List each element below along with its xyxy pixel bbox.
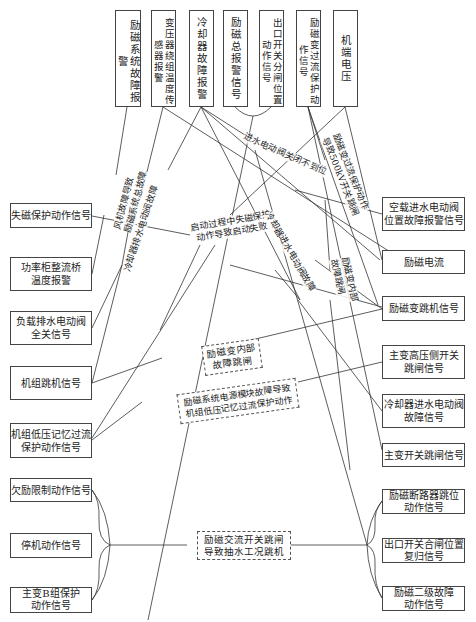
node-label-line1: 励磁二级故障 <box>394 587 454 599</box>
node-main-transformer-group-b-protection: 主变B组保护动作信号 <box>10 587 92 613</box>
node-cooler-fault-alarm: 冷却器故障报警 <box>189 10 214 107</box>
node-label-line1: 机组低压记忆过流 <box>11 428 91 441</box>
node-loss-of-excitation-protection: 失磁保护动作信号 <box>10 203 92 228</box>
node-label-line2: 动作信号 <box>31 600 71 612</box>
node-label-line1: 冷却器进水电动阀 <box>384 398 464 411</box>
node-excitation-breaker-trip-position: 励磁断路器跳位动作信号 <box>382 489 465 514</box>
node-label-line2: 动作信号 <box>404 502 444 514</box>
node-main-transformer-switch-trip: 主变开关跳闸信号 <box>382 443 465 467</box>
node-label: 失磁保护动作信号 <box>11 209 91 222</box>
node-label-line2: 位置故障报警信号 <box>384 214 464 227</box>
node-label: 主变开关跳闸信号 <box>384 449 464 462</box>
node-label: 励磁系统故障报警 <box>116 17 140 106</box>
node-excitation-level2-fault: 励磁二级故障动作信号 <box>382 586 465 611</box>
node-excitation-current: 励磁电流 <box>382 250 465 274</box>
node-label: 励磁电流 <box>404 256 444 269</box>
node-label-line2: 全关信号 <box>31 328 71 341</box>
node-label-line2: 动作信号 <box>404 599 444 611</box>
node-label: 冷却器故障报警 <box>196 17 208 101</box>
node-unit-trip-signal: 机组跳机信号 <box>10 366 92 400</box>
node-label-line2: 跳闸信号 <box>404 362 444 375</box>
fault-box-ac-switch-trip-pumping: 励磁交流开关跳闸 导致抽水工况跳机 <box>197 531 291 560</box>
node-label-line2: 温度报警 <box>31 274 71 287</box>
node-label: 励磁变跳机信号 <box>389 302 459 315</box>
node-label-line2: 保护动作信号 <box>21 441 81 454</box>
node-outlet-switch-close-reset: 出口开关合闸位置复归信号 <box>382 538 465 563</box>
node-excitation-system-fault-alarm: 励磁系统故障报警 <box>115 10 141 107</box>
node-label: 机组跳机信号 <box>21 377 81 390</box>
node-power-cabinet-rectifier-temp-alarm: 功率柜整流桥温度报警 <box>10 257 92 291</box>
node-outlet-switch-open-position: 出口开关分闸位置动作信号 <box>259 10 284 107</box>
node-label-line1: 空载进水电动阀 <box>389 201 459 214</box>
node-label-line1: 功率柜整流桥 <box>21 261 81 274</box>
node-low-voltage-memory-overcurrent: 机组低压记忆过流保护动作信号 <box>10 423 92 458</box>
node-under-excitation-limit: 欠励限制动作信号 <box>10 478 92 502</box>
node-label-line1: 主变B组保护 <box>22 588 79 600</box>
node-label: 励磁变过流保护动作信号 <box>298 17 320 106</box>
fault-box-line1: 励磁交流开关跳闸 <box>204 534 284 546</box>
node-transformer-winding-temp-alarm: 变压器绕组温度传感器报警 <box>151 10 176 107</box>
node-label: 停机动作信号 <box>21 539 81 552</box>
node-label: 变压器绕组温度传感器报警 <box>153 17 175 106</box>
fault-box-line2: 导致抽水工况跳机 <box>204 546 284 558</box>
node-label-line2: 故障信号 <box>404 411 444 424</box>
node-label-line1: 负载排水电动阀 <box>16 315 86 328</box>
node-load-drain-valve-closed: 负载排水电动阀全关信号 <box>10 311 92 345</box>
node-label: 出口开关分闸位置动作信号 <box>261 17 283 106</box>
node-excitation-transformer-trip: 励磁变跳机信号 <box>382 296 465 321</box>
node-label-line1: 出口开关合闸位置 <box>384 539 464 551</box>
node-main-transformer-hv-switch-trip: 主变高压侧开关跳闸信号 <box>382 345 465 379</box>
node-label: 机端电压 <box>340 35 352 83</box>
node-label-line2: 复归信号 <box>404 551 444 563</box>
node-label-line1: 励磁断路器跳位 <box>389 490 459 502</box>
node-label-line1: 主变高压侧开关 <box>389 349 459 362</box>
node-noload-inlet-valve-position-fault: 空载进水电动阀位置故障报警信号 <box>382 197 465 231</box>
node-excitation-transformer-overcurrent: 励磁变过流保护动作信号 <box>296 10 321 107</box>
node-label: 欠励限制动作信号 <box>11 484 91 497</box>
node-cooler-inlet-valve-fault: 冷却器进水电动阀故障信号 <box>382 394 465 428</box>
node-generator-terminal-voltage: 机端电压 <box>333 10 358 107</box>
node-label: 励磁总报警信号 <box>230 17 242 101</box>
fault-relation-diagram: 励磁系统故障报警 变压器绕组温度传感器报警 冷却器故障报警 励磁总报警信号 出口… <box>0 0 476 622</box>
node-shutdown-signal: 停机动作信号 <box>10 533 92 558</box>
node-excitation-total-alarm: 励磁总报警信号 <box>223 10 248 107</box>
